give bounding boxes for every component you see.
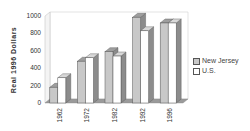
bar bbox=[141, 27, 154, 103]
y-tick-label: 800 bbox=[30, 29, 41, 36]
x-tick-label: 1972 bbox=[83, 108, 90, 123]
x-tick-label: 1996 bbox=[166, 108, 173, 123]
x-tick-label: 1992 bbox=[139, 108, 146, 123]
x-tick-label: 1982 bbox=[111, 108, 118, 123]
legend: New Jersey U.S. bbox=[193, 56, 239, 76]
legend-label: New Jersey bbox=[202, 56, 239, 66]
legend-item-us: U.S. bbox=[193, 66, 239, 76]
bar bbox=[85, 54, 98, 103]
legend-item-new-jersey: New Jersey bbox=[193, 56, 239, 66]
y-tick-label: 200 bbox=[30, 82, 41, 89]
y-tick-label: 0 bbox=[37, 99, 41, 106]
x-tick-label: 1962 bbox=[56, 108, 63, 123]
y-tick-label: 600 bbox=[30, 47, 41, 54]
bar bbox=[113, 52, 126, 103]
y-tick-label: 1000 bbox=[27, 12, 42, 19]
legend-swatch-us bbox=[193, 68, 200, 75]
bar bbox=[58, 74, 71, 103]
y-axis: 02004006008001000 bbox=[27, 12, 42, 106]
y-axis-label: Real 1996 Dollars bbox=[10, 27, 17, 93]
bar bbox=[168, 19, 181, 103]
legend-swatch-new-jersey bbox=[193, 58, 200, 65]
x-axis: 19621972198219921996 bbox=[56, 108, 173, 123]
legend-label: U.S. bbox=[202, 66, 216, 76]
y-tick-label: 400 bbox=[30, 64, 41, 71]
